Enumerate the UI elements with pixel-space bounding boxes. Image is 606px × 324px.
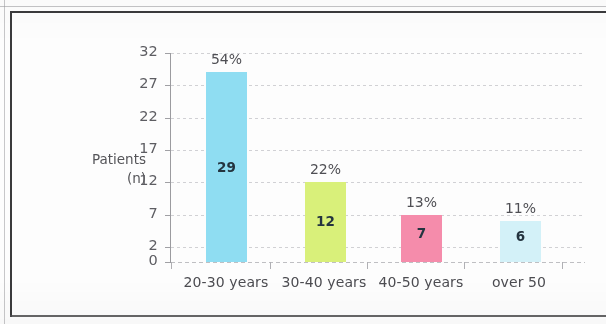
x-tick-mark bbox=[464, 262, 465, 269]
x-axis-category-label: 40-50 years bbox=[366, 274, 476, 290]
bar-chart-plot-area: Patients (n) 3227221712720 2954%1222%713… bbox=[0, 0, 606, 324]
bar-value-label: 6 bbox=[500, 228, 541, 244]
gridline-0 bbox=[171, 262, 585, 263]
y-axis-tick-label: 12 bbox=[116, 172, 158, 188]
bar-percent-label: 22% bbox=[293, 161, 358, 177]
bar-percent-label: 54% bbox=[194, 51, 259, 67]
bar[interactable]: 1222% bbox=[305, 182, 346, 262]
y-axis-tick-label: 0 bbox=[116, 252, 158, 268]
x-axis-category-label: 20-30 years bbox=[171, 274, 281, 290]
x-axis-category-label: 30-40 years bbox=[269, 274, 379, 290]
bar-percent-label: 11% bbox=[488, 200, 553, 216]
y-axis-line bbox=[170, 53, 171, 263]
bar-value-label: 7 bbox=[401, 225, 442, 241]
bar[interactable]: 713% bbox=[401, 215, 442, 262]
scanned-chart-page: Patients (n) 3227221712720 2954%1222%713… bbox=[0, 0, 606, 324]
bar[interactable]: 2954% bbox=[206, 72, 247, 262]
y-axis-tick-label: 17 bbox=[116, 140, 158, 156]
x-tick-mark bbox=[367, 262, 368, 269]
y-axis-tick-label: 2 bbox=[116, 237, 158, 253]
y-axis-tick-label: 32 bbox=[116, 43, 158, 59]
y-axis-tick-label: 7 bbox=[116, 205, 158, 221]
x-tick-mark bbox=[270, 262, 271, 269]
x-axis-category-label: over 50 bbox=[464, 274, 574, 290]
y-axis-tick-label: 27 bbox=[116, 75, 158, 91]
x-tick-mark bbox=[562, 262, 563, 269]
bar-percent-label: 13% bbox=[389, 194, 454, 210]
bar[interactable]: 611% bbox=[500, 221, 541, 262]
x-tick-mark bbox=[171, 262, 172, 269]
y-axis-tick-label: 22 bbox=[116, 108, 158, 124]
bar-value-label: 29 bbox=[206, 159, 247, 175]
bar-value-label: 12 bbox=[305, 213, 346, 229]
